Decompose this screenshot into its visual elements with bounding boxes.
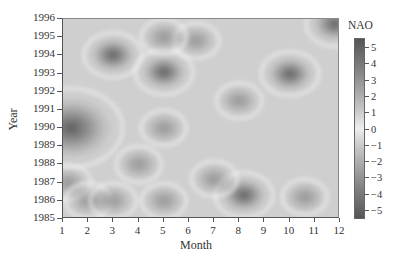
colorbar-tick — [365, 177, 369, 178]
y-tick — [57, 163, 62, 164]
colorbar-tick — [365, 129, 369, 130]
y-tick — [57, 73, 62, 74]
colorbar-tick — [365, 47, 369, 48]
heatmap-contour — [280, 178, 329, 216]
colorbar-tick-label: −2 — [371, 156, 382, 167]
y-tick — [57, 109, 62, 110]
heatmap-contour — [304, 18, 339, 48]
x-tick — [213, 218, 214, 222]
x-tick — [188, 218, 189, 222]
colorbar-tick-label: −1 — [371, 140, 382, 151]
y-tick — [57, 127, 62, 128]
colorbar-tick-label: −4 — [371, 189, 382, 200]
x-tick — [339, 218, 340, 222]
x-tick-label: 12 — [329, 224, 349, 236]
colorbar-tick — [365, 145, 369, 146]
heatmap-contour — [62, 87, 124, 169]
y-tick-label: 1990 — [15, 121, 55, 132]
x-axis-title: Month — [180, 238, 212, 253]
x-tick-label: 6 — [178, 224, 198, 236]
x-tick-label: 1 — [52, 224, 72, 236]
x-tick-label: 4 — [128, 224, 148, 236]
y-tick-label: 1996 — [15, 12, 55, 23]
y-tick-label: 1987 — [15, 176, 55, 187]
x-tick-label: 2 — [77, 224, 97, 236]
heatmap-contour — [139, 182, 188, 218]
colorbar — [354, 38, 365, 219]
x-tick — [238, 218, 239, 222]
colorbar-tick-label: −5 — [371, 205, 382, 216]
y-tick-label: 1995 — [15, 30, 55, 41]
colorbar-tick-label: 0 — [371, 124, 376, 135]
x-tick — [62, 218, 63, 222]
x-tick-label: 3 — [102, 224, 122, 236]
y-tick — [57, 18, 62, 19]
y-tick — [57, 36, 62, 37]
y-tick-label: 1986 — [15, 194, 55, 205]
heatmap-contour — [215, 82, 264, 120]
y-tick-label: 1989 — [15, 139, 55, 150]
x-tick — [163, 218, 164, 222]
colorbar-tick — [365, 63, 369, 64]
y-tick-label: 1992 — [15, 85, 55, 96]
y-tick — [57, 54, 62, 55]
y-tick — [57, 200, 62, 201]
colorbar-title: NAO — [348, 19, 373, 31]
colorbar-tick — [365, 112, 369, 113]
x-tick — [87, 218, 88, 222]
colorbar-tick — [365, 80, 369, 81]
x-tick — [112, 218, 113, 222]
colorbar-tick — [365, 161, 369, 162]
y-tick-label: 1988 — [15, 157, 55, 168]
x-tick — [314, 218, 315, 222]
x-tick-label: 8 — [228, 224, 248, 236]
heatmap-contour — [114, 145, 163, 183]
heatmap-contour — [139, 18, 188, 56]
colorbar-tick-label: 4 — [371, 58, 376, 69]
x-tick-label: 7 — [203, 224, 223, 236]
x-tick-label: 11 — [304, 224, 324, 236]
heatmap-contour — [139, 109, 188, 147]
x-tick-label: 9 — [253, 224, 273, 236]
y-tick — [57, 91, 62, 92]
colorbar-tick-label: 5 — [371, 42, 376, 53]
x-tick — [289, 218, 290, 222]
x-tick-label: 10 — [279, 224, 299, 236]
x-tick — [138, 218, 139, 222]
heatmap-contour — [89, 182, 138, 218]
colorbar-tick-label: 1 — [371, 107, 376, 118]
x-tick-label: 5 — [153, 224, 173, 236]
colorbar-tick — [365, 194, 369, 195]
colorbar-tick — [365, 96, 369, 97]
heatmap-plot-area — [62, 18, 339, 218]
colorbar-tick — [365, 210, 369, 211]
heatmap-contour — [259, 50, 320, 98]
y-tick-label: 1991 — [15, 103, 55, 114]
y-tick-label: 1994 — [15, 48, 55, 59]
colorbar-tick-label: 2 — [371, 91, 376, 102]
heatmap-contour — [190, 160, 239, 198]
y-tick-label: 1985 — [15, 212, 55, 223]
colorbar-tick-label: 3 — [371, 75, 376, 86]
y-tick-label: 1993 — [15, 67, 55, 78]
colorbar-tick-label: −3 — [371, 172, 382, 183]
x-tick — [263, 218, 264, 222]
y-tick — [57, 182, 62, 183]
y-tick — [57, 145, 62, 146]
